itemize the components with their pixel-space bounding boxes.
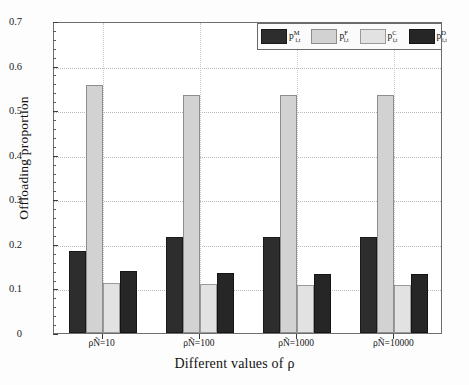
legend-entry-3[interactable]: pDi,t <box>409 24 458 49</box>
y-tick-minor <box>53 307 56 308</box>
y-tick-minor <box>53 49 56 50</box>
y-tick-minor <box>53 236 56 237</box>
y-tick-label-0.5: 0.5 <box>0 106 22 116</box>
legend-label-pM: pMi,t <box>289 32 311 42</box>
y-tick-minor <box>53 316 56 317</box>
bar-1-3[interactable] <box>217 273 234 333</box>
y-tick-minor <box>53 227 56 228</box>
legend-entry-0[interactable]: pMi,t <box>261 24 311 49</box>
bar-0-2[interactable] <box>103 283 120 333</box>
x-tick-label-0: ρÑ=10 <box>57 338 147 348</box>
bar-2-3[interactable] <box>314 274 331 333</box>
y-tick-minor <box>53 120 56 121</box>
bar-0-3[interactable] <box>120 271 137 333</box>
y-tick-label-0.4: 0.4 <box>0 151 22 161</box>
gridline-y-0.6 <box>54 68 441 69</box>
y-tick-minor <box>53 209 56 210</box>
x-tick-label-1: ρÑ=100 <box>154 338 244 348</box>
legend-swatch-pD <box>409 29 435 44</box>
bar-2-1[interactable] <box>280 95 297 333</box>
y-tick-minor <box>53 147 56 148</box>
y-tick-label-0.2: 0.2 <box>0 240 22 250</box>
y-tick-label-0.1: 0.1 <box>0 284 22 294</box>
y-tick-minor <box>53 75 56 76</box>
legend-swatch-pM <box>261 29 287 44</box>
legend-label-pD: pDi,t <box>437 32 458 42</box>
y-tick-minor <box>53 138 56 139</box>
x-tick-label-3: ρÑ=10000 <box>348 338 438 348</box>
y-tick-mark-0.5 <box>53 111 58 112</box>
y-tick-mark-0.2 <box>53 245 58 246</box>
y-tick-label-0: 0 <box>0 329 22 339</box>
y-tick-minor <box>53 325 56 326</box>
y-tick-minor <box>53 272 56 273</box>
y-tick-minor <box>53 281 56 282</box>
bar-3-3[interactable] <box>411 274 428 333</box>
y-tick-minor <box>53 129 56 130</box>
x-axis-label: Different values of ρ <box>0 356 469 372</box>
y-tick-mark-0.7 <box>53 22 58 23</box>
legend-swatch-pC <box>360 29 386 44</box>
bar-0-0[interactable] <box>69 251 86 333</box>
y-tick-minor <box>53 298 56 299</box>
y-tick-label-0.6: 0.6 <box>0 62 22 72</box>
chart-legend: pMi,t pFi,t pCi,t pDi,t <box>257 23 442 50</box>
y-tick-minor <box>53 102 56 103</box>
y-tick-minor <box>53 174 56 175</box>
legend-label-pC: pCi,t <box>388 32 409 42</box>
y-tick-minor <box>53 218 56 219</box>
figure-canvas: Offloading proportion Different values o… <box>0 0 469 385</box>
y-tick-minor <box>53 191 56 192</box>
x-tick-label-2: ρÑ=1000 <box>251 338 341 348</box>
y-tick-minor <box>53 40 56 41</box>
y-tick-minor <box>53 84 56 85</box>
bar-0-1[interactable] <box>86 85 103 333</box>
y-tick-minor <box>53 165 56 166</box>
y-tick-mark-0.4 <box>53 156 58 157</box>
y-tick-minor <box>53 182 56 183</box>
bar-2-0[interactable] <box>263 237 280 333</box>
bar-2-2[interactable] <box>297 285 314 333</box>
y-tick-minor <box>53 254 56 255</box>
legend-label-pF: pFi,t <box>339 32 359 42</box>
bar-1-1[interactable] <box>183 95 200 333</box>
bar-3-1[interactable] <box>377 95 394 333</box>
y-tick-label-0.7: 0.7 <box>0 17 22 27</box>
y-tick-label-0.3: 0.3 <box>0 195 22 205</box>
legend-swatch-pF <box>311 29 337 44</box>
bar-1-0[interactable] <box>166 237 183 333</box>
y-tick-minor <box>53 58 56 59</box>
y-tick-mark-0 <box>53 334 58 335</box>
y-tick-mark-0.6 <box>53 67 58 68</box>
legend-entry-1[interactable]: pFi,t <box>311 24 359 49</box>
plot-area <box>53 22 442 334</box>
y-tick-mark-0.1 <box>53 289 58 290</box>
bar-1-2[interactable] <box>200 284 217 333</box>
y-tick-minor <box>53 31 56 32</box>
bar-3-2[interactable] <box>394 285 411 333</box>
y-tick-minor <box>53 263 56 264</box>
y-tick-minor <box>53 93 56 94</box>
y-tick-mark-0.3 <box>53 200 58 201</box>
bar-3-0[interactable] <box>360 237 377 333</box>
legend-entry-2[interactable]: pCi,t <box>360 24 409 49</box>
